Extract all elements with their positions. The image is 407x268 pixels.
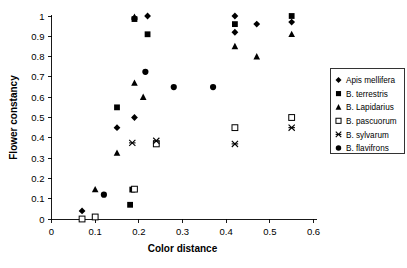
legend-item-label: B. Lapidarius [346, 103, 394, 112]
scatter-chart-figure: 00.10.20.30.40.50.600.10.20.30.40.50.60.… [0, 0, 407, 268]
chart-canvas: 00.10.20.30.40.50.600.10.20.30.40.50.60.… [0, 0, 407, 268]
y-tick-label: 1 [39, 11, 44, 22]
point-marker [114, 149, 121, 155]
legend-item-label: B. sylvarum [346, 131, 389, 140]
axes-layer: 00.10.20.30.40.50.600.10.20.30.40.50.60.… [8, 11, 320, 255]
point-marker [289, 13, 295, 19]
x-tick-label: 0.4 [220, 226, 233, 237]
point-marker [171, 84, 177, 90]
x-tick-label: 0.2 [132, 226, 145, 237]
point-marker [232, 29, 239, 36]
point-marker [232, 43, 239, 49]
point-legend-marker [336, 118, 341, 123]
point-legend-marker [336, 145, 341, 150]
point-marker [131, 114, 138, 121]
point-marker [79, 216, 85, 222]
point-legend-marker [336, 91, 341, 96]
point-marker [153, 141, 159, 147]
x-tick-label: 0 [49, 226, 54, 237]
point-marker [79, 207, 86, 214]
point-marker [127, 202, 133, 208]
point-marker [131, 79, 138, 85]
point-marker [140, 94, 147, 100]
legend-item-label: B. flavifrons [346, 144, 389, 153]
legend-item-label: Apis mellifera [346, 76, 396, 85]
point-marker [210, 84, 216, 90]
series-b-pascuorum [79, 115, 294, 222]
point-marker [114, 104, 120, 110]
chart-legend: Apis melliferaB. terrestrisB. Lapidarius… [331, 69, 405, 154]
series-apis-mellifera [79, 13, 295, 215]
point-marker [232, 141, 239, 147]
y-tick-label: 0.1 [31, 193, 44, 204]
y-tick-label: 0.8 [31, 51, 44, 62]
x-tick-label: 0.1 [89, 226, 102, 237]
x-axis-title: Color distance [148, 243, 218, 254]
y-tick-label: 0.5 [31, 112, 44, 123]
y-tick-label: 0.4 [31, 132, 44, 143]
y-tick-label: 0 [39, 214, 44, 225]
point-marker [92, 214, 98, 220]
point-marker [114, 124, 121, 131]
y-tick-label: 0.7 [31, 71, 44, 82]
point-marker [289, 115, 295, 121]
series-b-terrestris [92, 13, 294, 220]
point-marker [288, 31, 295, 37]
point-marker [101, 192, 107, 198]
point-marker [144, 13, 151, 20]
x-tick-label: 0.5 [263, 226, 276, 237]
point-marker [288, 125, 295, 131]
data-points-layer [79, 13, 295, 222]
point-marker [253, 53, 260, 59]
point-marker [92, 186, 99, 192]
point-marker [232, 21, 238, 27]
point-marker [142, 69, 148, 75]
point-marker [132, 186, 138, 192]
series-b-flavifrons [101, 69, 216, 198]
x-tick-label: 0.6 [307, 226, 320, 237]
x-tick-label: 0.3 [176, 226, 189, 237]
legend-item-label: B. pascuorum [346, 117, 397, 126]
point-marker [253, 21, 260, 28]
point-marker [232, 13, 239, 20]
legend-item-label: B. terrestris [346, 90, 388, 99]
y-tick-label: 0.6 [31, 92, 44, 103]
point-marker [129, 140, 136, 146]
y-axis-title: Flower constancy [8, 75, 19, 160]
point-marker [288, 19, 295, 26]
point-marker [145, 31, 151, 37]
series-b-lapidarius [92, 13, 295, 192]
y-tick-label: 0.3 [31, 153, 44, 164]
y-tick-label: 0.9 [31, 31, 44, 42]
y-tick-label: 0.2 [31, 173, 44, 184]
legend-item-b-pascuorum[interactable]: B. pascuorum [336, 117, 397, 126]
series-b-sylvarum [129, 125, 295, 147]
point-marker [232, 125, 238, 131]
